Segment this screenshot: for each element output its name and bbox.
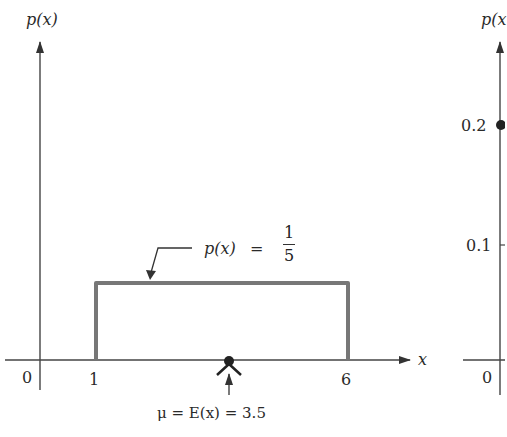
uniform-density-line [96,283,348,360]
annotation-lhs: p(x) [204,241,236,257]
right-y-tick-0-2: 0.2 [461,118,486,134]
fraction-bar [283,244,295,245]
fraction-denominator: 5 [284,248,294,264]
right-y-tick-0-1: 0.1 [466,238,491,254]
left-origin-label: 0 [22,370,32,386]
left-y-axis-label: p(x) [26,12,58,28]
fraction-numerator: 1 [284,225,294,241]
left-x-axis-label: x [418,352,427,368]
right-point-0-2 [496,120,505,130]
mean-label: μ = E(x) = 3.5 [157,406,266,421]
right-y-axis-label: p(x [481,12,507,28]
x-tick-6: 6 [341,372,351,388]
x-tick-1: 1 [89,372,99,388]
annotation-arrowhead-icon [146,270,156,280]
annotation-pointer [150,248,192,276]
annotation-fraction: 1 5 [283,225,295,264]
right-origin-label: 0 [482,370,492,386]
annotation-equals: = [250,241,263,257]
mean-fulcrum-icon [217,364,241,375]
